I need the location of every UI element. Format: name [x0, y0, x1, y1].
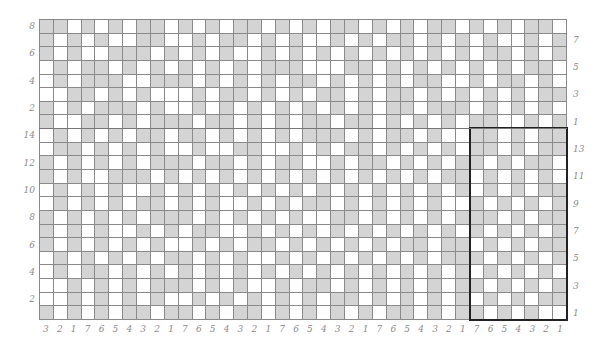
chart-cell — [331, 88, 345, 102]
chart-cell — [498, 252, 512, 266]
chart-cell — [359, 211, 373, 225]
chart-cell — [470, 102, 484, 116]
chart-cell — [442, 143, 456, 157]
chart-cell — [123, 238, 137, 252]
row-label-left: 10 — [17, 185, 35, 195]
chart-cell — [206, 143, 220, 157]
chart-cell — [553, 197, 567, 211]
chart-cell — [248, 143, 262, 157]
chart-cell — [248, 265, 262, 279]
chart-cell — [456, 88, 470, 102]
chart-cell — [193, 184, 207, 198]
chart-cell — [193, 143, 207, 157]
chart-cell — [193, 61, 207, 75]
chart-cell — [234, 170, 248, 184]
chart-cell — [401, 184, 415, 198]
row-label-left: 8 — [17, 21, 35, 31]
chart-cell — [317, 129, 331, 143]
chart-cell — [401, 143, 415, 157]
chart-cell — [290, 156, 304, 170]
chart-cell — [262, 75, 276, 89]
chart-cell — [262, 306, 276, 320]
chart-cell — [359, 156, 373, 170]
chart-cell — [359, 184, 373, 198]
chart-cell — [165, 184, 179, 198]
chart-cell — [345, 143, 359, 157]
chart-cell — [401, 34, 415, 48]
chart-cell — [234, 47, 248, 61]
chart-cell — [303, 279, 317, 293]
chart-cell — [345, 252, 359, 266]
chart-cell — [276, 238, 290, 252]
chart-cell — [331, 61, 345, 75]
chart-cell — [234, 265, 248, 279]
chart-cell — [262, 143, 276, 157]
chart-cell — [137, 279, 151, 293]
chart-cell — [484, 197, 498, 211]
chart-cell — [95, 61, 109, 75]
chart-cell — [373, 238, 387, 252]
row-label-left: 14 — [17, 130, 35, 140]
chart-cell — [359, 129, 373, 143]
chart-cell — [95, 306, 109, 320]
chart-cell — [82, 156, 96, 170]
chart-cell — [123, 88, 137, 102]
chart-cell — [220, 88, 234, 102]
chart-cell — [234, 238, 248, 252]
chart-cell — [234, 88, 248, 102]
chart-cell — [109, 156, 123, 170]
chart-cell — [525, 156, 539, 170]
chart-cell — [123, 279, 137, 293]
chart-cell — [123, 129, 137, 143]
chart-cell — [553, 34, 567, 48]
chart-cell — [248, 252, 262, 266]
chart-cell — [54, 61, 68, 75]
chart-cell — [456, 20, 470, 34]
chart-cell — [165, 143, 179, 157]
chart-cell — [234, 279, 248, 293]
chart-cell — [498, 34, 512, 48]
chart-cell — [428, 75, 442, 89]
chart-cell — [262, 238, 276, 252]
chart-cell — [317, 184, 331, 198]
chart-cell — [539, 34, 553, 48]
chart-cell — [470, 293, 484, 307]
chart-cell — [401, 156, 415, 170]
chart-cell — [248, 156, 262, 170]
chart-cell — [331, 293, 345, 307]
chart-cell — [151, 252, 165, 266]
chart-cell — [484, 252, 498, 266]
chart-cell — [512, 238, 526, 252]
chart-cell — [206, 279, 220, 293]
chart-cell — [525, 129, 539, 143]
chart-cell — [151, 143, 165, 157]
chart-cell — [206, 34, 220, 48]
row-label-right: 5 — [573, 253, 591, 263]
chart-cell — [276, 265, 290, 279]
chart-cell — [345, 129, 359, 143]
chart-cell — [151, 170, 165, 184]
chart-cell — [40, 88, 54, 102]
chart-cell — [414, 88, 428, 102]
chart-cell — [442, 252, 456, 266]
chart-cell — [206, 61, 220, 75]
chart-cell — [456, 238, 470, 252]
chart-cell — [262, 20, 276, 34]
column-label: 7 — [81, 324, 95, 334]
chart-cell — [553, 252, 567, 266]
column-label: 7 — [275, 324, 289, 334]
chart-cell — [442, 265, 456, 279]
chart-cell — [303, 197, 317, 211]
chart-cell — [498, 184, 512, 198]
chart-cell — [512, 211, 526, 225]
chart-cell — [220, 184, 234, 198]
chart-cell — [456, 252, 470, 266]
chart-cell — [276, 170, 290, 184]
chart-cell — [373, 75, 387, 89]
row-label-left: 4 — [17, 76, 35, 86]
chart-cell — [442, 279, 456, 293]
chart-cell — [373, 102, 387, 116]
chart-cell — [54, 184, 68, 198]
chart-cell — [553, 306, 567, 320]
chart-cell — [290, 225, 304, 239]
